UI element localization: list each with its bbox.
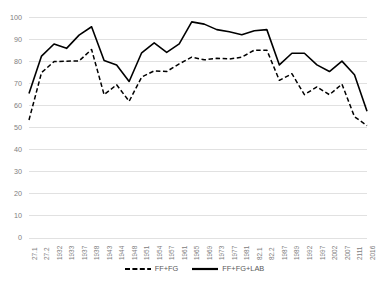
legend-label: FF+FG xyxy=(155,265,179,272)
legend-swatch-solid-icon xyxy=(192,265,218,273)
series-line-ff-fg-lab xyxy=(29,22,367,111)
series-line-ff-fg xyxy=(29,49,367,125)
plot-area xyxy=(0,0,389,288)
legend-label: FF+FG+LAB xyxy=(222,265,264,272)
chart-legend: FF+FGFF+FG+LAB xyxy=(0,265,389,273)
series-lines xyxy=(29,22,367,126)
gridlines xyxy=(29,18,367,239)
legend-swatch-dashed-icon xyxy=(125,265,151,273)
legend-item[interactable]: FF+FG xyxy=(125,265,179,273)
line-chart: 0102030405060708090100 27.127.2193219331… xyxy=(0,0,389,288)
legend-item[interactable]: FF+FG+LAB xyxy=(192,265,264,273)
